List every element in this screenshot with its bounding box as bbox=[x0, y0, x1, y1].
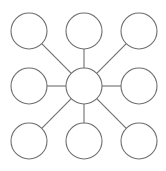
outer-node-circle bbox=[11, 68, 47, 104]
nodes bbox=[11, 13, 157, 159]
connector-line bbox=[97, 99, 127, 129]
connector-line bbox=[42, 99, 72, 129]
connector-line bbox=[42, 44, 72, 74]
hub-spoke-diagram bbox=[0, 0, 166, 171]
outer-node-circle bbox=[121, 68, 157, 104]
outer-node-circle bbox=[66, 13, 102, 49]
outer-node-circle bbox=[11, 13, 47, 49]
outer-node-circle bbox=[11, 123, 47, 159]
connector-line bbox=[97, 44, 127, 74]
outer-node-circle bbox=[121, 13, 157, 49]
outer-node-circle bbox=[66, 123, 102, 159]
hub-circle bbox=[66, 68, 102, 104]
outer-node-circle bbox=[121, 123, 157, 159]
